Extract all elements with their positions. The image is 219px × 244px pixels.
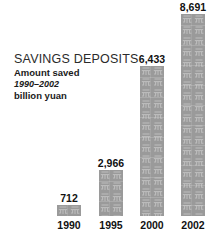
yuan-glyph-texture-icon	[181, 14, 205, 216]
bar-group-2002: 8,691	[181, 14, 205, 216]
bar-group-1995: 2,966	[99, 170, 123, 216]
bar-year-label: 2002	[181, 219, 204, 231]
bar-value-label: 6,433	[139, 53, 165, 66]
bar-year-label: 2000	[140, 219, 163, 231]
bar-2002[interactable]	[181, 14, 205, 216]
bar-value-label: 712	[60, 192, 78, 205]
savings-deposits-bar-chart: SAVINGS DEPOSITS Amount saved 1990–2002 …	[0, 0, 219, 244]
yuan-glyph-texture-icon	[140, 66, 164, 216]
bar-1995[interactable]	[99, 170, 123, 216]
bar-1990[interactable]	[57, 205, 81, 216]
yuan-glyph-texture-icon	[57, 205, 81, 216]
bar-year-label: 1995	[99, 219, 122, 231]
yuan-glyph-texture-icon	[99, 170, 123, 216]
bar-year-label: 1990	[57, 219, 80, 231]
bar-2000[interactable]	[140, 66, 164, 216]
bar-group-2000: 6,433	[140, 66, 164, 216]
bar-value-label: 2,966	[98, 157, 124, 170]
bar-value-label: 8,691	[180, 1, 206, 14]
bar-group-1990: 712	[57, 205, 81, 216]
plot-area: 712	[0, 0, 219, 244]
